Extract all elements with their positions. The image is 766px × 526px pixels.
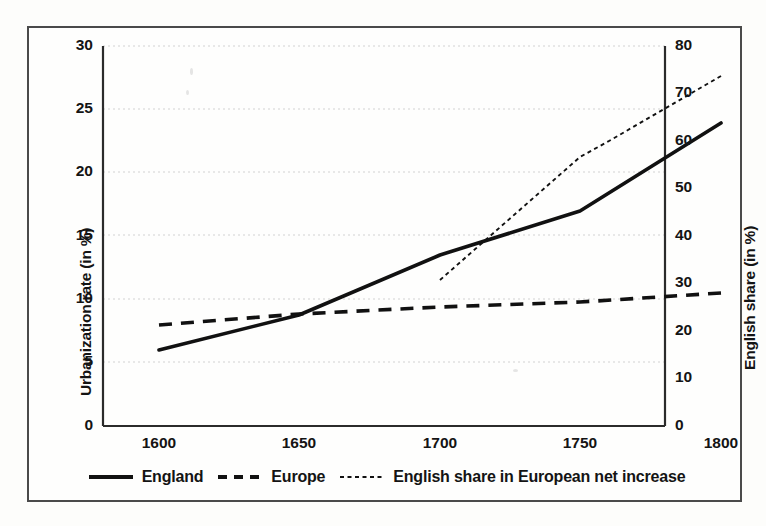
left-tick-10: 10	[45, 289, 93, 307]
legend-swatch-dashed-icon	[217, 471, 263, 483]
legend-swatch-solid-icon	[88, 471, 134, 483]
x-tick-1700: 1700	[410, 434, 470, 452]
left-tick-5: 5	[45, 352, 93, 370]
right-tick-80: 80	[675, 36, 721, 54]
legend-label-europe: Europe	[271, 468, 325, 486]
legend-item-england[interactable]: England	[88, 468, 204, 486]
legend-item-english-share[interactable]: English share in European net increase	[339, 468, 685, 486]
right-tick-30: 30	[675, 273, 721, 291]
right-tick-0: 0	[675, 416, 721, 434]
x-tick-1650: 1650	[269, 434, 329, 452]
chart-plot	[29, 28, 740, 500]
axis-spines	[103, 46, 665, 426]
figure-frame: Urbanization rate (in %) English share (…	[27, 26, 742, 502]
gridlines	[103, 46, 665, 362]
chart-legend: England Europe English share in European…	[29, 468, 744, 486]
right-tick-20: 20	[675, 321, 721, 339]
legend-swatch-dotted-icon	[339, 471, 385, 483]
right-tick-40: 40	[675, 226, 721, 244]
x-tick-1800: 1800	[691, 434, 751, 452]
left-axis-title: Urbanization rate (in %)	[77, 228, 95, 396]
legend-label-england: England	[142, 468, 204, 486]
x-tick-1600: 1600	[129, 434, 189, 452]
legend-item-europe[interactable]: Europe	[217, 468, 325, 486]
right-tick-50: 50	[675, 178, 721, 196]
right-tick-10: 10	[675, 368, 721, 386]
left-tick-20: 20	[45, 162, 93, 180]
x-tick-1750: 1750	[550, 434, 610, 452]
series-line-england	[159, 123, 721, 350]
right-tick-60: 60	[675, 131, 721, 149]
series-line-europe	[159, 293, 721, 325]
right-tick-70: 70	[675, 83, 721, 101]
left-tick-30: 30	[45, 36, 93, 54]
left-tick-25: 25	[45, 99, 93, 117]
legend-label-english-share: English share in European net increase	[393, 468, 685, 486]
left-tick-0: 0	[45, 416, 93, 434]
left-tick-15: 15	[45, 226, 93, 244]
right-axis-title: English share (in %)	[741, 226, 759, 370]
